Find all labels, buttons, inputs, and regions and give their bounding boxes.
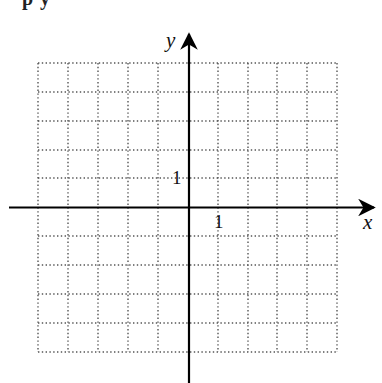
coordinate-plane: [0, 0, 382, 383]
x-axis-label: x: [363, 212, 372, 233]
y-axis-label: y: [166, 30, 175, 51]
x-tick-label-1: 1: [214, 212, 224, 231]
y-tick-label-1: 1: [172, 168, 182, 187]
